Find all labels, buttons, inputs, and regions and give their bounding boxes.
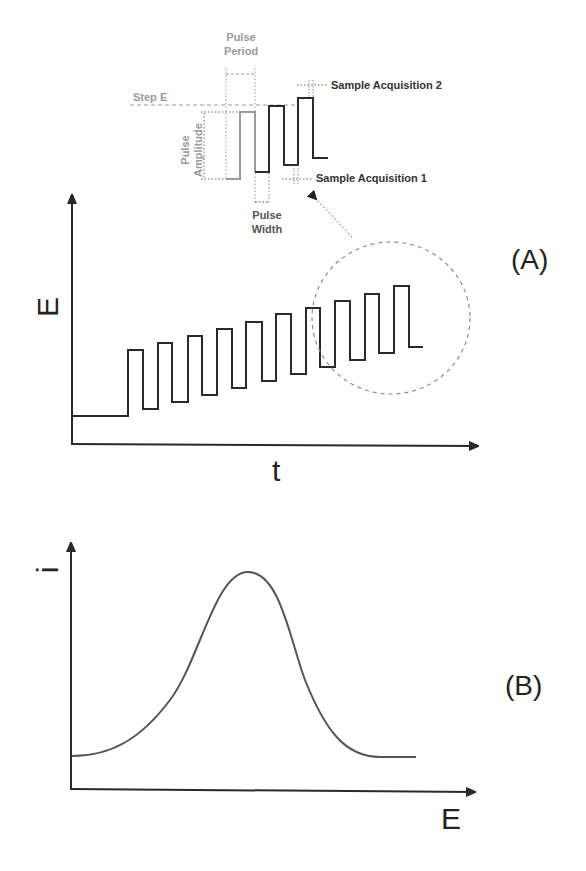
panel-a-label: (A) (511, 246, 548, 274)
panel-b-y-axis-label: i (33, 567, 63, 574)
pulse-period-line1: Pulse (215, 32, 267, 43)
sample-acquisition-1-label: Sample Acquisition 1 (316, 173, 427, 184)
panel-b-label: (B) (505, 672, 542, 700)
panel-b-x-axis-label: E (441, 804, 461, 834)
panel-b-chart (70, 543, 475, 792)
panel-a-waveform (72, 286, 423, 416)
panel-a-y-axis-label: E (33, 297, 63, 317)
pulse-width-line1: Pulse (242, 210, 292, 221)
sample-acquisition-2-label: Sample Acquisition 2 (331, 80, 442, 91)
pulse-amplitude-line2: Amplitude (193, 118, 204, 182)
panel-a-x-axis-label: t (272, 456, 280, 486)
step-e-label: Step E (133, 92, 167, 103)
panel-b-peak-curve (72, 572, 416, 757)
pulse-amplitude-label: Pulse Amplitude (180, 118, 204, 182)
panel-b-x-axis (70, 789, 475, 792)
zoom-pointer (316, 199, 352, 237)
pulse-amplitude-line1: Pulse (180, 118, 191, 182)
panel-a-x-axis (71, 444, 478, 446)
pulse-period-line2: Period (215, 46, 267, 57)
inset-waveform-grey (226, 112, 255, 179)
pulse-period-label: Pulse Period (215, 32, 267, 57)
diagram-canvas (0, 0, 586, 871)
inset-waveform (255, 98, 328, 172)
pulse-width-label: Pulse Width (242, 210, 292, 235)
pulse-width-line2: Width (242, 224, 292, 235)
